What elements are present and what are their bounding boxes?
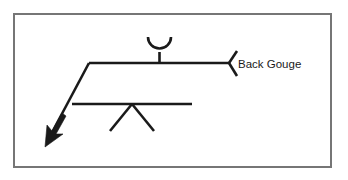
solid-filled-arrowhead <box>45 113 66 147</box>
v-groove-right-leg <box>132 104 154 131</box>
border-frame <box>14 14 331 167</box>
tail-upper-stroke <box>229 51 237 63</box>
back-gouge-u-arc-icon <box>148 37 171 48</box>
v-groove-left-leg <box>110 104 132 131</box>
tail-note-label: Back Gouge <box>238 58 301 70</box>
welding-symbol-figure: Back Gouge <box>0 0 348 180</box>
tail-lower-stroke <box>229 63 237 76</box>
welding-symbol-canvas: Back Gouge <box>0 0 348 180</box>
